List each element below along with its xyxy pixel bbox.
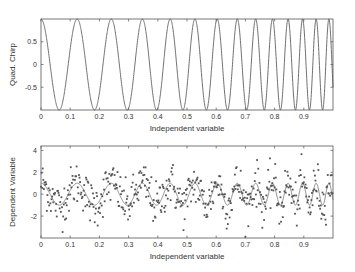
y-tick-label: 2: [33, 169, 37, 176]
x-tick-label: 0.1: [65, 113, 75, 120]
x-tick-label: 0.9: [299, 113, 309, 120]
x-tick-label: 0.4: [153, 113, 163, 120]
x-tick-label: 0.5: [182, 113, 192, 120]
chirp-line: [41, 19, 333, 110]
x-tick-label: 0: [39, 241, 43, 248]
bottom-x-ticks: 00.10.20.30.40.50.60.70.80.9: [39, 146, 309, 248]
y-tick-label: 0: [33, 191, 37, 198]
x-tick-label: 0: [39, 113, 43, 120]
x-tick-label: 0.2: [95, 113, 105, 120]
x-tick-label: 0.8: [270, 113, 280, 120]
top-y-ticks: -0.500.5: [25, 38, 333, 91]
x-tick-label: 0.8: [270, 241, 280, 248]
top-chirp-plot: 00.10.20.30.40.50.60.70.80.9 -0.500.5 In…: [8, 19, 333, 133]
x-tick-label: 0.6: [211, 113, 221, 120]
y-tick-label: 0: [33, 61, 37, 68]
x-tick-label: 0.1: [65, 241, 75, 248]
x-tick-label: 0.3: [124, 113, 134, 120]
top-y-axis-label: Quad. Chirp: [8, 42, 17, 86]
x-tick-label: 0.2: [95, 241, 105, 248]
y-tick-label: 0.5: [27, 38, 37, 45]
x-tick-label: 0.4: [153, 241, 163, 248]
scatter-points: [40, 153, 333, 238]
bottom-y-axis-label: Dependent Variable: [8, 156, 17, 227]
bottom-x-axis-label: Independent variable: [150, 252, 225, 261]
x-tick-label: 0.6: [211, 241, 221, 248]
y-tick-label: 4: [33, 147, 37, 154]
top-axes-box: [41, 19, 333, 110]
figure: 00.10.20.30.40.50.60.70.80.9 -0.500.5 In…: [0, 0, 355, 272]
x-tick-label: 0.5: [182, 241, 192, 248]
x-tick-label: 0.9: [299, 241, 309, 248]
top-x-axis-label: Independent variable: [150, 124, 225, 133]
x-tick-label: 0.7: [241, 241, 251, 248]
y-tick-label: -0.5: [25, 84, 37, 91]
x-tick-label: 0.7: [241, 113, 251, 120]
y-tick-label: -2: [31, 213, 37, 220]
x-tick-label: 0.3: [124, 241, 134, 248]
bottom-scatter-plot: 00.10.20.30.40.50.60.70.80.9 -2024 Indep…: [8, 146, 333, 261]
